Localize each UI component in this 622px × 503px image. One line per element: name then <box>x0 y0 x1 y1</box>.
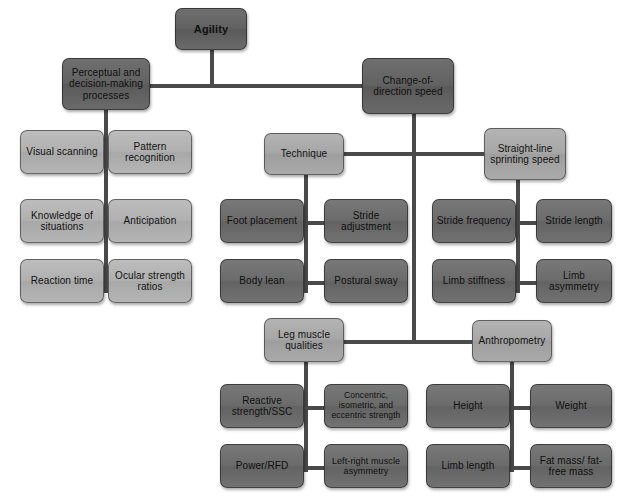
node-reaction-time[interactable]: Reaction time <box>20 259 104 303</box>
node-height[interactable]: Height <box>426 384 510 428</box>
node-reactive-strength-ssc[interactable]: Reactive strength/SSC <box>220 384 304 428</box>
node-pattern-recognition-label: Pattern recognition <box>112 141 188 164</box>
node-reactive-strength-ssc-label: Reactive strength/SSC <box>224 395 300 418</box>
node-pattern-recognition[interactable]: Pattern recognition <box>108 130 192 174</box>
node-stride-frequency[interactable]: Stride frequency <box>432 199 516 243</box>
node-limb-length-label: Limb length <box>430 460 506 471</box>
node-fat-mass-fat-free-mass[interactable]: Fat mass/ fat-free mass <box>530 444 612 488</box>
node-technique[interactable]: Technique <box>264 133 344 175</box>
node-ocular-strength-ratios[interactable]: Ocular strength ratios <box>108 259 192 303</box>
node-leg-muscle-qualities[interactable]: Leg muscle qualities <box>264 318 344 362</box>
node-concentric-isometric-eccentric-strength[interactable]: Concentric, isometric, and eccentric str… <box>324 384 408 428</box>
node-limb-stiffness-label: Limb stiffness <box>436 275 512 286</box>
connector-main-trunk <box>148 84 362 88</box>
node-stride-length-label: Stride length <box>540 215 608 226</box>
connector-anthro-spine <box>510 362 514 472</box>
node-knowledge-of-situations[interactable]: Knowledge of situations <box>20 199 104 243</box>
connector-legmuscle-spine <box>304 362 308 472</box>
node-perceptual-processes-label: Perceptual and decision-making processes <box>66 67 146 101</box>
node-foot-placement-label: Foot placement <box>224 215 300 226</box>
node-visual-scanning[interactable]: Visual scanning <box>20 130 104 174</box>
node-straight-line-sprinting-speed-label: Straight-line sprinting speed <box>488 143 562 166</box>
node-anthropometry[interactable]: Anthropometry <box>472 320 552 362</box>
connector-agility-down <box>210 48 214 87</box>
node-stride-frequency-label: Stride frequency <box>436 215 512 226</box>
connector-technique-spine <box>304 175 308 293</box>
node-fat-mass-fat-free-mass-label: Fat mass/ fat-free mass <box>534 455 608 478</box>
node-knowledge-of-situations-label: Knowledge of situations <box>24 210 100 233</box>
node-weight-label: Weight <box>534 400 608 411</box>
node-anticipation-label: Anticipation <box>112 215 188 226</box>
node-anthropometry-label: Anthropometry <box>476 335 548 346</box>
node-limb-length[interactable]: Limb length <box>426 444 510 488</box>
node-stride-length[interactable]: Stride length <box>536 199 612 243</box>
node-agility-label: Agility <box>179 23 243 36</box>
node-stride-adjustment-label: Stride adjustment <box>328 210 404 233</box>
node-power-rfd[interactable]: Power/RFD <box>220 444 304 488</box>
node-stride-adjustment[interactable]: Stride adjustment <box>324 199 408 243</box>
node-ocular-strength-ratios-label: Ocular strength ratios <box>112 270 188 293</box>
node-leg-muscle-qualities-label: Leg muscle qualities <box>268 329 340 352</box>
node-weight[interactable]: Weight <box>530 384 612 428</box>
node-power-rfd-label: Power/RFD <box>224 460 300 471</box>
node-postural-sway-label: Postural sway <box>328 275 404 286</box>
node-left-right-muscle-asymmetry-label: Left-right muscle asymmetry <box>328 456 404 477</box>
node-body-lean-label: Body lean <box>224 275 300 286</box>
connector-cod-level2 <box>344 152 484 156</box>
node-foot-placement[interactable]: Foot placement <box>220 199 304 243</box>
agility-flowchart: Agility Perceptual and decision-making p… <box>0 0 622 503</box>
node-body-lean[interactable]: Body lean <box>220 259 304 303</box>
node-left-right-muscle-asymmetry[interactable]: Left-right muscle asymmetry <box>324 444 408 488</box>
node-agility[interactable]: Agility <box>175 8 247 50</box>
node-concentric-isometric-eccentric-strength-label: Concentric, isometric, and eccentric str… <box>328 391 404 420</box>
node-limb-asymmetry-label: Limb asymmetry <box>540 270 608 293</box>
node-change-of-direction-speed-label: Change-of-direction speed <box>366 75 450 98</box>
node-postural-sway[interactable]: Postural sway <box>324 259 408 303</box>
node-straight-line-sprinting-speed[interactable]: Straight-line sprinting speed <box>484 128 566 180</box>
node-height-label: Height <box>430 400 506 411</box>
node-anticipation[interactable]: Anticipation <box>108 199 192 243</box>
connector-cod-spine <box>412 114 416 342</box>
node-perceptual-processes[interactable]: Perceptual and decision-making processes <box>62 58 150 110</box>
node-limb-asymmetry[interactable]: Limb asymmetry <box>536 259 612 303</box>
connector-straightline-spine <box>516 180 520 293</box>
node-visual-scanning-label: Visual scanning <box>24 146 100 157</box>
node-technique-label: Technique <box>268 148 340 159</box>
node-reaction-time-label: Reaction time <box>24 275 100 286</box>
node-limb-stiffness[interactable]: Limb stiffness <box>432 259 516 303</box>
node-change-of-direction-speed[interactable]: Change-of-direction speed <box>362 58 454 114</box>
connector-cod-level3 <box>340 340 486 344</box>
